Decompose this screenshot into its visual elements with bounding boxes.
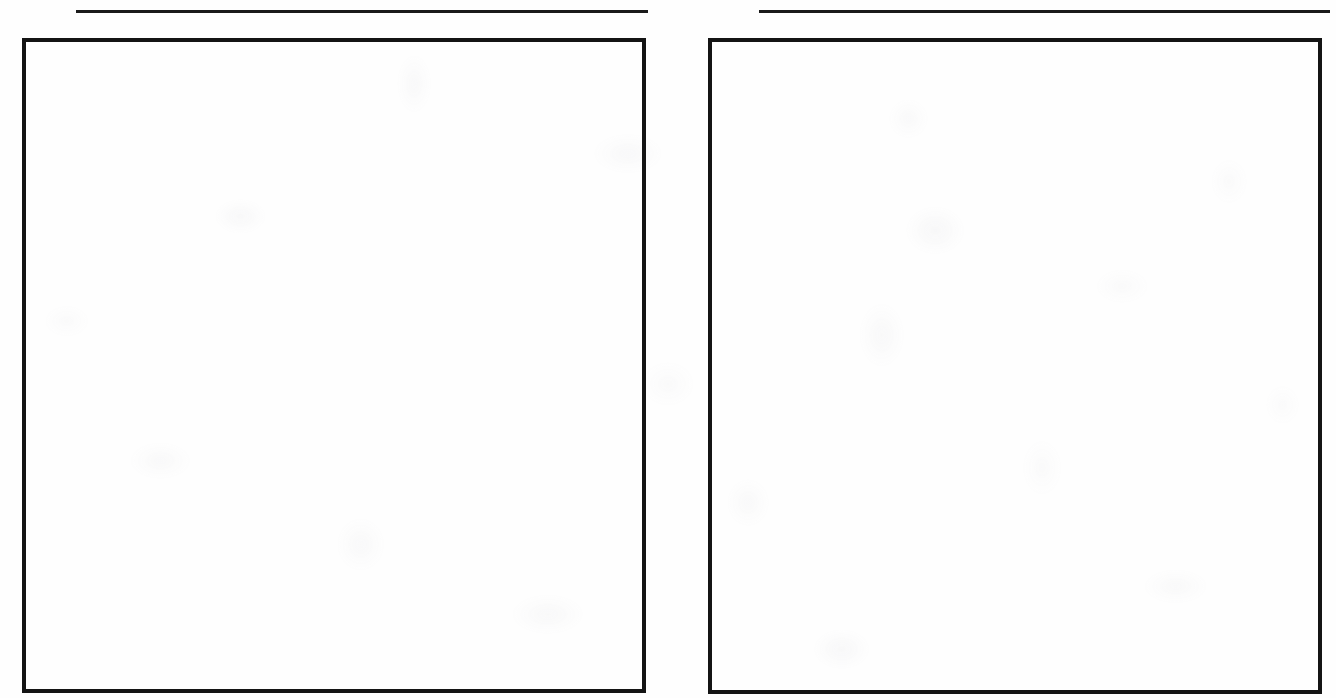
right-panel[interactable] bbox=[708, 38, 1322, 694]
right-heading-rule bbox=[759, 10, 1330, 13]
scanned-page bbox=[0, 0, 1336, 698]
left-heading-rule bbox=[76, 10, 648, 13]
right-panel-content bbox=[712, 42, 1318, 690]
left-panel[interactable] bbox=[22, 38, 646, 693]
left-panel-content bbox=[26, 42, 642, 689]
